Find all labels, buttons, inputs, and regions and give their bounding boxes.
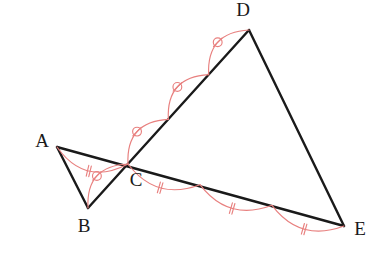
congruence-marks-group [57,30,344,235]
segment-AB [57,147,88,208]
vertex-label-b: B [78,215,91,236]
segments-group [57,30,344,226]
segment-AE [57,147,344,226]
arc-AC [57,147,128,177]
vertex-label-c: C [130,169,143,190]
segment-DE [249,30,344,226]
vertex-label-d: D [236,0,250,20]
geometry-figure: ABCDE [0,0,384,260]
vertex-label-e: E [354,218,366,239]
vertex-label-a: A [35,130,49,151]
geometry-canvas: ABCDE [0,0,384,260]
